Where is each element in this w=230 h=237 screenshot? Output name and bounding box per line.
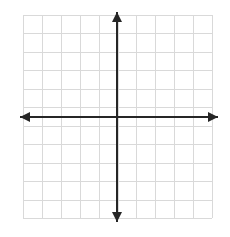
coordinate-plane-canvas — [0, 0, 230, 237]
coordinate-plane-figure — [0, 0, 230, 237]
figure-background — [0, 0, 230, 237]
